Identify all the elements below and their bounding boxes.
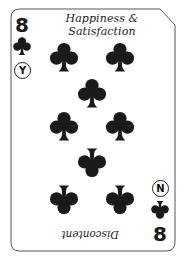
no-badge: N: [152, 180, 169, 197]
club-icon: [12, 36, 32, 56]
title-line-1: Happiness &: [56, 12, 148, 25]
yes-badge: Y: [14, 62, 31, 79]
club-icon-inverted: [48, 184, 80, 216]
club-icon: [48, 41, 80, 73]
bottom-caption: Discontent: [50, 229, 130, 241]
club-icon-inverted: [76, 147, 108, 179]
club-icon-inverted: [150, 200, 170, 220]
club-icon-inverted: [104, 184, 136, 216]
club-icon: [76, 77, 108, 109]
card-title: Happiness & Satisfaction: [56, 12, 148, 38]
club-icon: [104, 41, 136, 73]
title-line-2: Satisfaction: [56, 25, 148, 38]
bottom-rank: 8: [150, 224, 170, 244]
club-icon: [48, 110, 80, 142]
club-icon: [104, 110, 136, 142]
top-rank: 8: [12, 15, 32, 35]
